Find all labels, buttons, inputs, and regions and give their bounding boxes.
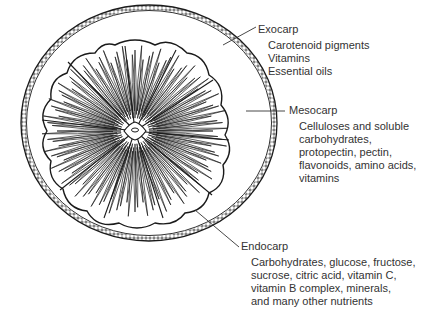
mesocarp-item: carbohydrates, [299, 133, 416, 146]
mesocarp-item: flavonoids, amino acids, [299, 159, 416, 172]
mesocarp-title: Mesocarp [289, 104, 416, 117]
exocarp-item: Essential oils [268, 65, 370, 78]
endocarp-item: and many other nutrients [251, 295, 415, 308]
exocarp-item: Carotenoid pigments [268, 39, 370, 52]
endocarp-segments [42, 40, 230, 228]
exocarp-item: Vitamins [268, 52, 370, 65]
endocarp-title: Endocarp [241, 240, 415, 253]
exocarp-items: Carotenoid pigments Vitamins Essential o… [268, 39, 370, 78]
endocarp-item: vitamin B complex, minerals, [251, 282, 415, 295]
mesocarp-label: Mesocarp Celluloses and soluble carbohyd… [289, 104, 416, 185]
endocarp-label: Endocarp Carbohydrates, glucose, fructos… [241, 240, 415, 308]
exocarp-title: Exocarp [258, 23, 370, 36]
endocarp-items: Carbohydrates, glucose, fructose, sucros… [251, 256, 415, 308]
mesocarp-item: vitamins [299, 172, 416, 185]
mesocarp-item: protopectin, pectin, [299, 146, 416, 159]
mesocarp-items: Celluloses and soluble carbohydrates, pr… [299, 120, 416, 185]
endocarp-item: Carbohydrates, glucose, fructose, [251, 256, 415, 269]
mesocarp-item: Celluloses and soluble [299, 120, 416, 133]
exocarp-label: Exocarp Carotenoid pigments Vitamins Ess… [258, 23, 370, 78]
endocarp-item: sucrose, citric acid, vitamin C, [251, 269, 415, 282]
